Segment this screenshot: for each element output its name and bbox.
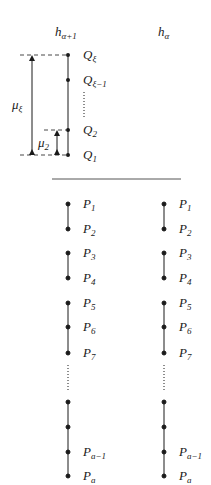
right-label-pa-minus-1: Pa−1 — [179, 445, 202, 461]
left-label-pa: Pa — [83, 469, 95, 485]
left-label-p7: P7 — [83, 346, 95, 362]
left-label-p6: P6 — [83, 320, 95, 336]
label-q-2: Q2 — [83, 123, 97, 139]
left-label-p3: P3 — [83, 246, 95, 262]
left-label-p1: P1 — [83, 197, 95, 213]
left-label-pa-minus-1: Pa−1 — [83, 445, 106, 461]
left-label-p4: P4 — [83, 271, 95, 287]
right-label-p5: P5 — [179, 296, 191, 312]
left-p-chain — [66, 202, 70, 478]
right-label-p3: P3 — [179, 246, 191, 262]
right-label-pa: Pa — [179, 469, 191, 485]
label-q-xi-minus-1: Qξ−1 — [83, 73, 107, 89]
label-mu-2: μ2 — [38, 136, 49, 152]
label-q-1: Q1 — [83, 148, 97, 164]
right-label-p2: P2 — [179, 222, 191, 238]
right-p-chain — [162, 202, 166, 478]
label-q-xi: Qξ — [83, 48, 96, 64]
right-label-p4: P4 — [179, 271, 191, 287]
left-label-p5: P5 — [83, 296, 95, 312]
right-label-p1: P1 — [179, 197, 191, 213]
header-left: hα+1 — [55, 25, 77, 41]
q-chain — [66, 53, 84, 157]
label-mu-xi: μξ — [12, 98, 22, 114]
header-right: hα — [158, 25, 169, 41]
left-label-p2: P2 — [83, 222, 95, 238]
right-label-p7: P7 — [179, 346, 191, 362]
right-label-p6: P6 — [179, 320, 191, 336]
